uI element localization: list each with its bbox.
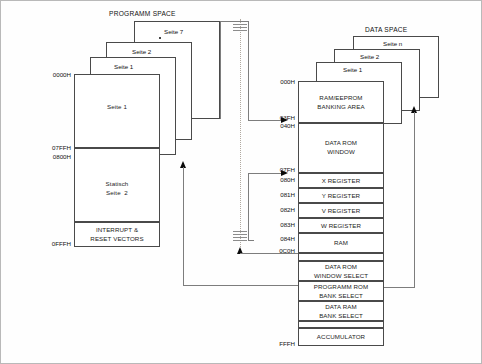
v-register-label: V REGISTER bbox=[298, 203, 384, 218]
accumulator-label: ACCUMULATOR bbox=[298, 328, 384, 346]
bus-rung bbox=[233, 237, 247, 238]
bus-lower-stub bbox=[248, 240, 254, 241]
data-rom-window-line1: DATA ROM bbox=[298, 138, 384, 147]
address-program-static-start: 0800H bbox=[25, 153, 71, 160]
address-data-0C0: 0C0H bbox=[257, 247, 295, 254]
program-page-seite1-label: Seite 1 bbox=[114, 63, 133, 70]
bus-rung bbox=[233, 30, 247, 31]
program-static-line1: Statisch bbox=[74, 179, 160, 188]
diagram-canvas: PROGRAMM SPACE Seite 7 Seite 2 Seite 1 S… bbox=[0, 0, 482, 364]
program-page-seite7-label: Seite 7 bbox=[164, 28, 183, 35]
bus-rung bbox=[233, 234, 247, 235]
address-data-03F: 03FH bbox=[257, 114, 295, 121]
bank-select-feedback-horizontal bbox=[384, 287, 415, 288]
program-front-page-label: Seite 1 bbox=[74, 101, 160, 113]
address-data-084: 084H bbox=[257, 235, 295, 242]
ram-label: RAM bbox=[298, 233, 384, 253]
data-space-title: DATA SPACE bbox=[365, 26, 407, 33]
interrupt-vectors-line2: RESET VECTORS bbox=[74, 234, 160, 243]
address-program-page-end: 07FFH bbox=[25, 144, 71, 151]
banking-area-line2: BANKING AREA bbox=[298, 102, 384, 111]
data-page-seite1-label: Seite 1 bbox=[343, 66, 362, 73]
block-spacer-lower bbox=[298, 321, 384, 328]
address-data-083: 083H bbox=[257, 221, 295, 228]
program-feedback-vertical bbox=[183, 167, 184, 285]
address-bus-dotted bbox=[240, 19, 242, 247]
bus-rung bbox=[233, 231, 247, 232]
w-register-label: W REGISTER bbox=[298, 218, 384, 233]
program-space-title: PROGRAMM SPACE bbox=[109, 10, 176, 17]
interrupt-vectors-line1: INTERRUPT & bbox=[74, 225, 160, 234]
x-register-label: X REGISTER bbox=[298, 173, 384, 188]
address-program-start: 0000H bbox=[25, 71, 71, 78]
data-page-seite-n-label: Seite n bbox=[383, 40, 402, 47]
data-rom-window-select-line2: WINDOW SELECT bbox=[298, 271, 384, 280]
address-data-040: 040H bbox=[257, 122, 295, 129]
block-spacer-upper bbox=[298, 253, 384, 261]
bus-rung bbox=[233, 24, 247, 25]
programm-rom-bank-select-line2: BANK SELECT bbox=[298, 291, 384, 300]
program-static-line2: Seite 2 bbox=[74, 188, 160, 197]
address-data-080: 080H bbox=[257, 176, 295, 183]
bank-select-feedback-vertical bbox=[414, 112, 415, 287]
bus-link-vertical bbox=[220, 21, 221, 119]
bus-lower-vertical bbox=[248, 173, 249, 240]
data-ram-bank-select-line2: BANK SELECT bbox=[298, 311, 384, 320]
data-ram-bank-select-line1: DATA RAM bbox=[298, 302, 384, 311]
data-rom-window-line2: WINDOW bbox=[298, 147, 384, 156]
address-program-end: 0FFFH bbox=[25, 240, 71, 247]
banking-area-line1: RAM/EEPROM bbox=[298, 93, 384, 102]
data-page-seite2-label: Seite 2 bbox=[360, 53, 379, 60]
continuation-dot bbox=[159, 37, 161, 39]
y-register-label: Y REGISTER bbox=[298, 188, 384, 203]
address-data-FFF: FFFH bbox=[257, 340, 295, 347]
programm-rom-bank-select-line1: PROGRAMM ROM bbox=[298, 282, 384, 291]
bus-right-vertical bbox=[248, 21, 249, 120]
bus-link-top bbox=[220, 21, 248, 22]
address-data-07F: 07FH bbox=[257, 166, 295, 173]
address-data-081: 081H bbox=[257, 191, 295, 198]
data-rom-window-select-line1: DATA ROM bbox=[298, 262, 384, 271]
bus-to-data-rom-window bbox=[248, 173, 281, 174]
address-data-082: 082H bbox=[257, 206, 295, 213]
bus-rung bbox=[233, 240, 247, 241]
program-page-seite2-label: Seite 2 bbox=[132, 48, 151, 55]
address-data-000: 000H bbox=[257, 78, 295, 85]
bus-rung bbox=[233, 27, 247, 28]
